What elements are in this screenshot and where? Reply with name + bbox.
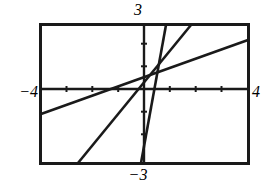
axis-label-x-min: −4	[6, 84, 38, 100]
plot-canvas	[0, 0, 276, 189]
axis-label-y-min: −3	[0, 167, 276, 183]
graph-figure: 3 −3 −4 4	[0, 0, 276, 189]
axis-label-x-max: 4	[252, 84, 274, 100]
axis-label-y-max: 3	[0, 2, 276, 18]
